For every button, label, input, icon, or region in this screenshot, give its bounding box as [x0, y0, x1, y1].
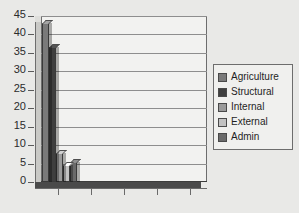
legend-label: Agriculture — [231, 72, 279, 82]
bar-side — [70, 165, 73, 182]
legend-label: Structural — [231, 87, 274, 97]
plot-area — [35, 16, 207, 188]
legend-label: Internal — [231, 102, 264, 112]
legend-label: External — [231, 117, 268, 127]
legend-swatch-icon — [218, 88, 227, 97]
legend-swatch-icon — [218, 133, 227, 142]
x-tick-mark — [190, 188, 191, 195]
bar-side — [49, 23, 52, 182]
y-tick-mark — [28, 182, 34, 183]
y-axis: 454035302520151050 — [0, 16, 35, 188]
y-tick-mark — [28, 34, 34, 35]
y-tick-label: 15 — [2, 120, 26, 131]
bar-side — [56, 47, 59, 182]
y-tick-mark — [28, 145, 34, 146]
y-tick-label: 25 — [2, 83, 26, 94]
y-tick-label: 20 — [2, 101, 26, 112]
y-tick-mark — [28, 71, 34, 72]
legend-swatch-icon — [218, 103, 227, 112]
legend-label: Admin — [231, 132, 259, 142]
x-tick-mark — [91, 188, 92, 195]
bar-group — [41, 16, 207, 182]
y-tick-mark — [28, 90, 34, 91]
legend-swatch-icon — [218, 73, 227, 82]
bar-side — [77, 162, 80, 182]
legend-item-agriculture[interactable]: Agriculture — [218, 70, 289, 84]
bar-agriculture — [42, 20, 49, 182]
legend-item-structural[interactable]: Structural — [218, 85, 289, 99]
legend-swatch-icon — [218, 118, 227, 127]
y-tick-label: 40 — [2, 27, 26, 38]
bar-face — [42, 23, 49, 182]
y-tick-label: 45 — [2, 9, 26, 20]
legend-item-external[interactable]: External — [218, 115, 289, 129]
y-tick-label: 10 — [2, 138, 26, 149]
y-tick-mark — [28, 16, 34, 17]
y-tick-label: 30 — [2, 64, 26, 75]
chart-legend: AgricultureStructuralInternalExternalAdm… — [213, 64, 293, 150]
y-tick-mark — [28, 127, 34, 128]
x-axis — [35, 188, 207, 202]
bar-side — [63, 153, 66, 183]
y-tick-label: 35 — [2, 46, 26, 57]
y-tick-mark — [28, 164, 34, 165]
x-tick-mark — [58, 188, 59, 195]
legend-item-internal[interactable]: Internal — [218, 100, 289, 114]
y-tick-mark — [28, 108, 34, 109]
x-axis-line — [35, 188, 207, 189]
legend-item-admin[interactable]: Admin — [218, 130, 289, 144]
y-tick-label: 5 — [2, 157, 26, 168]
x-tick-mark — [124, 188, 125, 195]
x-tick-mark — [157, 188, 158, 195]
bar-chart: 454035302520151050 AgricultureStructural… — [0, 0, 299, 213]
y-tick-label: 0 — [2, 175, 26, 186]
y-tick-mark — [28, 53, 34, 54]
